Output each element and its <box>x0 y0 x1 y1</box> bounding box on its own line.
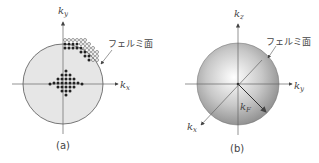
panel-b: フェルミ面 kz ky kx kF (b) <box>185 8 311 154</box>
kz-label: kz <box>234 8 244 21</box>
fermi-surface-diagram: フェルミ面 ky kx (a) フェルミ面 kz ky kx kF (b) <box>0 0 319 163</box>
fermi-surface-label-a: フェルミ面 <box>108 39 153 49</box>
fermi-surface-label-b: フェルミ面 <box>266 37 311 47</box>
ky-label-b: ky <box>294 80 305 93</box>
ky-label: ky <box>58 5 69 18</box>
kx-label-b: kx <box>187 121 197 134</box>
caption-a: (a) <box>56 140 70 151</box>
fermi-pointer-a <box>101 50 112 64</box>
kx-label: kx <box>120 79 130 92</box>
fermi-pointer-b <box>268 46 276 58</box>
panel-a: フェルミ面 ky kx (a) <box>12 5 153 151</box>
caption-b: (b) <box>230 143 244 154</box>
origin-dot <box>237 83 240 86</box>
